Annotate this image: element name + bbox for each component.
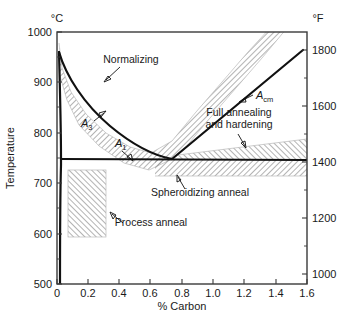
iron-carbon-phase-diagram: 1000 900 800 700 600 500 °C 1800 1600 14… (0, 0, 363, 313)
y2-tick-1400: 1400 (312, 156, 336, 168)
band-spheroidizing (155, 159, 307, 176)
annotation-normalizing: Normalizing (103, 53, 159, 65)
annotation-full-annealing-line2: and hardening (205, 118, 272, 130)
x-tick-1-2: 1.2 (236, 287, 251, 299)
y2-tick-1200: 1200 (312, 212, 336, 224)
x-tick-1-4: 1.4 (268, 287, 283, 299)
y-tick-1000: 1000 (28, 26, 52, 38)
y-tick-500: 500 (34, 278, 52, 290)
x-tick-0-4: 0.4 (111, 287, 126, 299)
y-tick-600: 600 (34, 228, 52, 240)
y2-tick-1800: 1800 (312, 44, 336, 56)
y-axis-title: Temperature (4, 127, 16, 189)
x-tick-0-6: 0.6 (142, 287, 157, 299)
annotation-process-anneal: Process anneal (115, 216, 187, 228)
y2-tick-1000: 1000 (312, 268, 336, 280)
x-tick-0: 0 (54, 287, 60, 299)
y-tick-700: 700 (34, 177, 52, 189)
x-tick-1-6: 1.6 (299, 287, 314, 299)
fahrenheit-unit-label: °F (312, 12, 323, 24)
annotation-full-annealing-line1: Full annealing (206, 106, 272, 118)
band-process-anneal (68, 170, 106, 237)
celsius-unit-label: °C (51, 12, 63, 24)
x-tick-1-0: 1.0 (205, 287, 220, 299)
x-axis-title: % Carbon (158, 300, 207, 312)
line-a1 (61, 159, 307, 160)
y-tick-800: 800 (34, 127, 52, 139)
y-tick-900: 900 (34, 76, 52, 88)
chart-svg: 1000 900 800 700 600 500 °C 1800 1600 14… (0, 0, 363, 313)
annotation-spheroidizing: Spheroidizing anneal (151, 186, 249, 198)
x-tick-0-8: 0.8 (174, 287, 189, 299)
y2-tick-1600: 1600 (312, 100, 336, 112)
x-tick-0-2: 0.2 (80, 287, 95, 299)
